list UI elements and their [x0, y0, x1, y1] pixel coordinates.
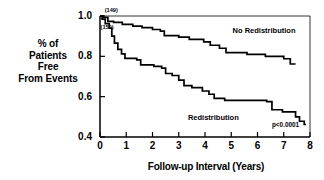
curve-label-no-redistribution: No Redistribution [233, 26, 296, 35]
y-tick-label: 0.4 [64, 131, 92, 142]
x-axis-title: Follow-up Interval (Years) [100, 161, 312, 172]
x-tick-label: 8 [303, 140, 317, 151]
y-tick-label: 0.8 [64, 50, 92, 61]
x-tick-label: 7 [277, 140, 291, 151]
x-tick-label: 5 [224, 140, 238, 151]
x-tick-label: 6 [251, 140, 265, 151]
y-tick-label: 1.0 [64, 10, 92, 21]
y-axis-title-line-1: % of [6, 38, 90, 50]
redistribution-n-label: (150) [101, 24, 114, 30]
kaplan-meier-figure: % of Patients Free From Events Follow-up… [0, 0, 324, 180]
y-axis-title-line-3: Free [6, 61, 90, 73]
x-tick-label: 4 [198, 140, 212, 151]
x-tick-label: 2 [146, 140, 160, 151]
x-tick-label: 3 [172, 140, 186, 151]
no-redistribution-n-label: (149) [105, 7, 118, 13]
curve-label-redistribution: Redistribution [188, 113, 239, 122]
x-tick-label: 1 [119, 140, 133, 151]
x-tick-label: 0 [93, 140, 107, 151]
y-tick-label: 0.6 [64, 91, 92, 102]
y-axis-title-line-4: From Events [6, 73, 90, 85]
p-value-label: p<0.0001 [272, 121, 299, 128]
